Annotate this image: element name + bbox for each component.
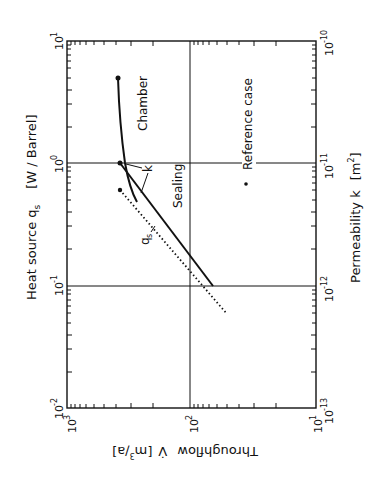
svg-text:10: 10 <box>66 419 79 433</box>
bottom-axis-tick-labels: 10 3 10 2 10 1 <box>63 415 325 433</box>
k-leader-2 <box>141 173 148 193</box>
chamber-endpoint-dot <box>116 76 121 81</box>
plot-frame <box>67 41 316 408</box>
svg-text:10: 10 <box>53 36 66 50</box>
svg-text:-10: -10 <box>320 30 329 43</box>
k-leader-1 <box>126 164 142 168</box>
chart-figure: Chamber Sealing k q s Reference case 10 … <box>0 0 382 483</box>
reference-case-dot <box>244 182 248 186</box>
svg-text:3: 3 <box>63 415 72 420</box>
svg-text:10: 10 <box>188 419 201 433</box>
svg-text:-13: -13 <box>320 398 329 411</box>
svg-text:-2: -2 <box>50 398 59 406</box>
left-axis-tick-labels: 10 1 10 0 10 -1 10 -2 <box>50 32 66 419</box>
right-axis-tick-labels: 10 -10 10 -11 10 -12 10 -13 <box>320 30 336 424</box>
chamber-curve <box>118 78 137 202</box>
svg-text:1: 1 <box>50 32 59 37</box>
svg-text:10: 10 <box>53 159 66 173</box>
sealing-label: Sealing <box>171 164 185 208</box>
qs-endpoint-dot <box>118 188 122 192</box>
reference-case-label: Reference case <box>241 78 255 170</box>
chamber-label: Chamber <box>136 76 150 131</box>
sealing-line <box>120 163 213 286</box>
svg-text:-12: -12 <box>320 276 329 289</box>
qs-label: q s <box>138 234 154 245</box>
right-ticks <box>311 45 316 372</box>
svg-text:10: 10 <box>312 419 325 433</box>
top-ticks <box>71 41 276 46</box>
svg-text:1: 1 <box>309 415 318 420</box>
k-label: k <box>141 165 155 172</box>
bottom-ticks <box>71 403 276 408</box>
svg-text:10: 10 <box>323 165 336 179</box>
svg-text:2: 2 <box>185 415 194 420</box>
bottom-axis-title: ThroughflowV̇[m3/a] <box>112 444 259 460</box>
svg-text:s: s <box>145 234 154 238</box>
svg-text:Permeability k[m2]: Permeability k[m2] <box>347 152 363 283</box>
svg-text:0: 0 <box>50 155 59 160</box>
left-ticks <box>67 45 72 372</box>
right-axis-title: Permeability k[m2] <box>347 152 363 283</box>
svg-text:10: 10 <box>323 42 336 56</box>
svg-text:Heat source qs[W / Barrel]: Heat source qs[W / Barrel] <box>24 114 42 300</box>
svg-text:-11: -11 <box>320 153 329 166</box>
left-axis-title: Heat source qs[W / Barrel] <box>24 114 42 300</box>
sealing-endpoint-dot <box>118 161 123 166</box>
svg-text:10: 10 <box>53 282 66 296</box>
svg-text:ThroughflowV̇[m3/a]: ThroughflowV̇[m3/a] <box>112 444 259 460</box>
svg-text:10: 10 <box>323 288 336 302</box>
svg-text:-1: -1 <box>50 275 59 283</box>
